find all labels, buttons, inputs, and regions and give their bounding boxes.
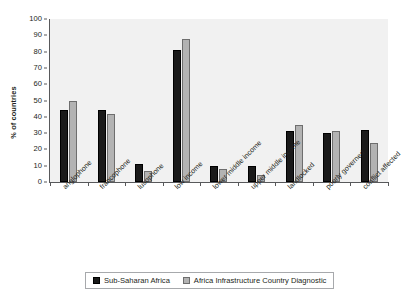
x-axis-category-labels: anglophonefrancophonelusophonelow income… [0, 186, 398, 248]
legend-item-series-0: Sub-Saharan Africa [93, 276, 170, 285]
y-axis-tick-mark [44, 51, 47, 52]
y-axis-title-text: % of countries [9, 86, 18, 138]
bar-group [125, 19, 163, 182]
legend-item-series-1: Africa Infrastructure Country Diagnostic [183, 276, 327, 285]
y-axis-tick-label: 100 [29, 15, 42, 23]
y-axis-tick-mark [44, 165, 47, 166]
y-axis-tick-mark [44, 35, 47, 36]
chart-legend: Sub-Saharan Africa Africa Infrastructure… [85, 272, 334, 289]
y-axis-tick-label: 10 [34, 162, 42, 170]
y-axis-tick-label: 90 [34, 32, 42, 40]
plot-region: % of countries 0102030405060708090100 an… [0, 0, 398, 250]
y-axis-tick-label: 70 [34, 64, 42, 72]
bar-group [50, 19, 88, 182]
bar [173, 50, 181, 182]
y-axis-tick-label: 30 [34, 129, 42, 137]
y-axis-tick-mark [44, 84, 47, 85]
bar-group [200, 19, 238, 182]
legend-swatch-icon-series-1 [183, 277, 190, 284]
y-axis-tick-mark [44, 100, 47, 101]
bar [60, 110, 68, 182]
y-axis-tick-label: 80 [34, 48, 42, 56]
legend-label-series-1: Africa Infrastructure Country Diagnostic [194, 276, 327, 285]
bar [323, 133, 331, 182]
y-axis-tick-mark [44, 182, 47, 183]
bar-group [163, 19, 201, 182]
y-axis-tick-label: 20 [34, 146, 42, 154]
y-axis-tick-label: 50 [34, 97, 42, 105]
y-axis-tick-label: 40 [34, 113, 42, 121]
y-axis-tick-mark [44, 133, 47, 134]
bar-group [88, 19, 126, 182]
y-axis-tick-label: 60 [34, 80, 42, 88]
legend-swatch-icon-series-0 [93, 277, 100, 284]
y-axis-tick-mark [44, 19, 47, 20]
bars-layer [50, 19, 388, 182]
bar [182, 39, 190, 182]
bar-group [313, 19, 351, 182]
bar [98, 110, 106, 182]
y-axis-tick-mark [44, 67, 47, 68]
y-axis-tick-mark [44, 149, 47, 150]
y-axis-tick-label: 0 [38, 178, 42, 186]
legend-label-series-0: Sub-Saharan Africa [104, 276, 170, 285]
y-axis-tick-mark [44, 116, 47, 117]
